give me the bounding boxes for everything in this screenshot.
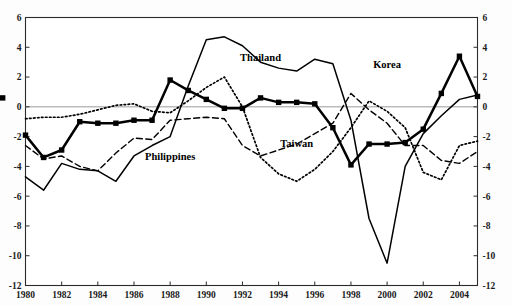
series-marker-korea xyxy=(95,121,100,126)
series-marker-korea xyxy=(204,97,209,102)
series-marker-korea xyxy=(222,106,227,111)
series-marker-korea xyxy=(348,162,353,167)
y-axis-label-right: 4 xyxy=(483,43,488,53)
series-label-korea: Korea xyxy=(373,59,402,70)
y-axis-label-left: -8 xyxy=(14,221,22,231)
x-axis-label: 2000 xyxy=(378,290,397,300)
series-marker-korea xyxy=(366,141,371,146)
series-marker-korea xyxy=(457,54,462,59)
y-axis-label-left: 2 xyxy=(17,72,22,82)
y-axis-label-left: 4 xyxy=(17,43,22,53)
series-label-thailand: Thailand xyxy=(240,52,281,63)
chart-figure: 66442200-2-2-4-4-6-6-8-8-10-10-12-121980… xyxy=(0,0,512,306)
chart-svg: 66442200-2-2-4-4-6-6-8-8-10-10-12-121980… xyxy=(0,0,512,306)
x-axis-label: 1980 xyxy=(16,290,35,300)
series-marker-korea xyxy=(330,125,335,130)
series-label-taiwan: Taiwan xyxy=(280,138,313,149)
series-marker-korea xyxy=(77,119,82,124)
y-axis-label-right: -10 xyxy=(483,251,496,261)
series-marker-korea xyxy=(312,101,317,106)
x-axis-label: 1996 xyxy=(305,290,324,300)
y-axis-label-right: 6 xyxy=(483,13,488,23)
x-axis-label: 1988 xyxy=(161,290,180,300)
y-axis-label-right: -2 xyxy=(483,132,491,142)
y-axis-label-left: -2 xyxy=(14,132,22,142)
series-marker-korea xyxy=(258,95,263,100)
series-marker-korea xyxy=(59,147,64,152)
series-marker-korea xyxy=(167,77,172,82)
chart-plot-area: 66442200-2-2-4-4-6-6-8-8-10-10-12-121980… xyxy=(0,0,512,306)
series-marker-korea xyxy=(149,118,154,123)
x-axis-label: 2004 xyxy=(450,290,469,300)
x-axis-label: 2002 xyxy=(414,290,433,300)
series-marker-korea xyxy=(276,100,281,105)
y-axis-label-right: -12 xyxy=(483,281,496,291)
x-axis-label: 1998 xyxy=(341,290,360,300)
series-marker-korea xyxy=(0,95,5,100)
y-axis-label-left: 6 xyxy=(17,13,22,23)
series-marker-korea xyxy=(131,118,136,123)
y-axis-label-right: -4 xyxy=(483,162,491,172)
x-axis-label: 1994 xyxy=(269,290,288,300)
series-marker-korea xyxy=(439,91,444,96)
y-axis-label-right: -8 xyxy=(483,221,491,231)
series-marker-korea xyxy=(294,100,299,105)
x-axis-label: 1992 xyxy=(233,290,252,300)
series-marker-korea xyxy=(113,121,118,126)
y-axis-label-left: 0 xyxy=(17,102,22,112)
y-axis-label-right: 2 xyxy=(483,72,488,82)
series-label-philippines: Philippines xyxy=(145,151,195,162)
x-axis-label: 1984 xyxy=(88,290,107,300)
y-axis-label-right: -6 xyxy=(483,192,491,202)
y-axis-label-left: -10 xyxy=(9,251,22,261)
x-axis-label: 1986 xyxy=(124,290,143,300)
y-axis-label-right: 0 xyxy=(483,102,488,112)
series-marker-korea xyxy=(23,132,28,137)
y-axis-label-left: -4 xyxy=(14,162,22,172)
y-axis-label-left: -6 xyxy=(14,192,22,202)
x-axis-label: 1982 xyxy=(52,290,71,300)
series-marker-korea xyxy=(384,141,389,146)
x-axis-label: 1990 xyxy=(197,290,216,300)
